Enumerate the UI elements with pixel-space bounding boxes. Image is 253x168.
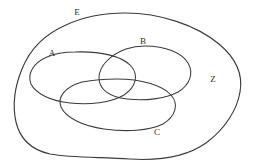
- label-b: B: [140, 36, 146, 46]
- label-c: C: [154, 127, 160, 137]
- venn-diagram: E A B C Z: [0, 0, 253, 168]
- set-b-boundary: [99, 46, 191, 100]
- label-e: E: [74, 7, 80, 17]
- set-a-boundary: [30, 52, 136, 104]
- label-z: Z: [210, 74, 216, 84]
- diagram-canvas: E A B C Z: [0, 0, 253, 168]
- set-c-boundary: [60, 79, 175, 131]
- label-a: A: [49, 48, 56, 58]
- universal-set-boundary: [14, 13, 241, 159]
